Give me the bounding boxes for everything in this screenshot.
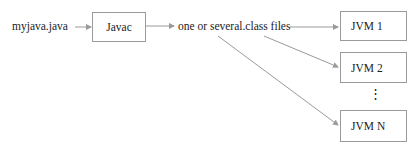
jvm-1-box: JVM 1 <box>340 11 407 41</box>
ellipsis: ⋮ <box>369 86 382 102</box>
jvm-2-label: JVM 2 <box>351 62 383 74</box>
source-file-label: myjava.java <box>12 20 68 32</box>
jvm-n-label: JVM N <box>351 120 385 132</box>
jvm-n-box: JVM N <box>340 110 407 142</box>
output-label: one or several.class files <box>178 20 290 32</box>
jvm-2-box: JVM 2 <box>340 52 407 83</box>
javac-box: Javac <box>92 12 146 42</box>
arrow-output-to-jvmn <box>218 36 338 125</box>
arrow-output-to-jvm2 <box>264 36 338 67</box>
javac-label: Javac <box>106 21 132 33</box>
jvm-1-label: JVM 1 <box>351 20 383 32</box>
